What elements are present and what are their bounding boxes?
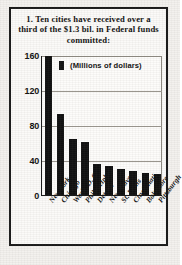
bar-chart: 160 120 80 40 0 (Millions of dollars): [13, 56, 163, 206]
y-tick-0: 0: [15, 191, 39, 201]
x-label-slot: Cincinnati: [128, 198, 135, 258]
legend: (Millions of dollars): [59, 61, 142, 70]
newspaper-clipping: 1. Ten cities have received over a third…: [0, 0, 180, 265]
x-axis-labels: New York Chicago Wash. D. C. Philadelphi…: [44, 198, 160, 258]
x-label-slot: Wash. D. C.: [68, 198, 75, 258]
legend-swatch-icon: [59, 61, 64, 70]
x-label-slot: Chicago: [56, 198, 63, 258]
x-label-slot: Philadelphia: [80, 198, 87, 258]
y-tick-40: 40: [15, 156, 39, 166]
x-label-slot: Baltimore: [141, 198, 148, 258]
legend-label: (Millions of dollars): [70, 61, 142, 70]
headline-text: Ten cities have received over a third of…: [18, 14, 159, 45]
bar-new-york: [45, 56, 52, 195]
y-tick-80: 80: [15, 121, 39, 131]
x-label-slot: Pittsburgh: [153, 198, 160, 258]
y-tick-120: 120: [15, 86, 39, 96]
x-label-slot: Detroit: [92, 198, 99, 258]
x-label-slot: St. Louis: [116, 198, 123, 258]
headline-number: 1.: [26, 14, 33, 24]
headline: 1. Ten cities have received over a third…: [18, 14, 159, 45]
x-label-slot: New Haven: [104, 198, 111, 258]
x-label-slot: New York: [44, 198, 51, 258]
y-tick-160: 160: [15, 51, 39, 61]
y-axis: 160 120 80 40 0: [13, 56, 39, 196]
